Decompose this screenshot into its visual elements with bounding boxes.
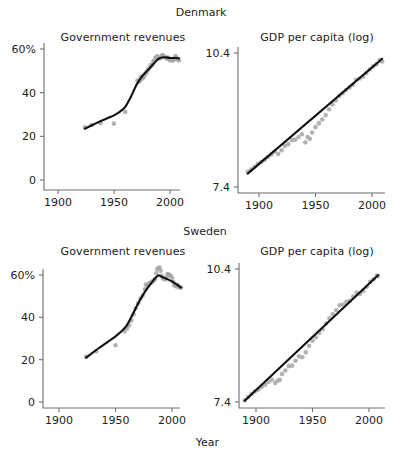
data-point xyxy=(300,355,305,360)
y-tick-label: 20 xyxy=(22,130,36,143)
plot-canvas: 0204060%1900195020007.410.41900195020000… xyxy=(0,0,402,460)
data-point xyxy=(308,136,313,141)
data-point xyxy=(283,368,288,373)
data-point xyxy=(170,275,175,280)
data-point xyxy=(112,121,117,126)
x-tick-label: 1900 xyxy=(44,196,72,209)
x-tick-label: 1950 xyxy=(102,414,130,427)
y-tick-label: 20 xyxy=(21,354,35,367)
fit-line xyxy=(85,57,179,128)
x-tick-label: 2000 xyxy=(156,196,184,209)
fit-line xyxy=(248,59,382,174)
y-tick-label: 60% xyxy=(12,43,36,56)
y-tick-label: 0 xyxy=(29,174,36,187)
x-tick-label: 2000 xyxy=(158,414,186,427)
x-tick-label: 2000 xyxy=(358,199,386,212)
data-point xyxy=(158,268,163,273)
x-tick-label: 1950 xyxy=(299,414,327,427)
data-point xyxy=(279,148,284,153)
y-tick-label: 40 xyxy=(21,311,35,324)
y-tick-label: 40 xyxy=(22,87,36,100)
panel-denmark-government-revenues: 0204060%190019502000 xyxy=(12,43,184,209)
data-point xyxy=(270,378,275,383)
data-point xyxy=(123,110,128,115)
data-point xyxy=(313,125,318,130)
data-point xyxy=(303,140,308,145)
x-tick-label: 1950 xyxy=(100,196,128,209)
data-point xyxy=(113,343,118,348)
data-point xyxy=(290,363,295,368)
data-point xyxy=(327,107,332,112)
y-tick-label: 10.4 xyxy=(206,47,231,60)
y-tick-label: 7.4 xyxy=(214,396,232,409)
x-tick-label: 1900 xyxy=(245,199,273,212)
panel-sweden-gdp-per-capita-log: 7.410.4190019502000 xyxy=(207,263,386,427)
y-tick-label: 7.4 xyxy=(213,181,231,194)
data-point xyxy=(300,132,305,137)
x-tick-label: 2000 xyxy=(355,414,383,427)
scatter-points xyxy=(83,53,182,130)
y-tick-label: 60% xyxy=(11,269,35,282)
data-point xyxy=(293,358,298,363)
data-point xyxy=(307,343,312,348)
data-point xyxy=(286,142,291,147)
data-point xyxy=(280,372,285,377)
x-tick-label: 1900 xyxy=(242,414,270,427)
panel-sweden-government-revenues: 0204060%190019502000 xyxy=(11,265,186,427)
figure-root: Denmark Government revenues GDP per capi… xyxy=(0,0,402,460)
panel-denmark-gdp-per-capita-log: 7.410.4190019502000 xyxy=(206,47,387,212)
x-tick-label: 1900 xyxy=(45,414,73,427)
data-point xyxy=(317,121,322,126)
x-tick-label: 1950 xyxy=(302,199,330,212)
data-point xyxy=(303,350,308,355)
data-point xyxy=(277,378,282,383)
data-point xyxy=(323,113,328,118)
data-point xyxy=(310,130,315,135)
y-tick-label: 0 xyxy=(28,396,35,409)
fit-line xyxy=(245,275,378,400)
y-tick-label: 10.4 xyxy=(207,263,232,276)
data-point xyxy=(320,117,325,122)
data-point xyxy=(276,152,281,157)
